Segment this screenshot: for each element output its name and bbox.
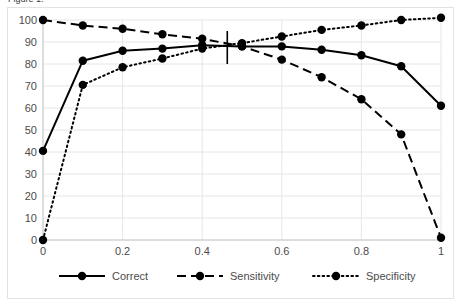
data-point-marker [437, 102, 445, 110]
y-tick-label: 80 [25, 58, 37, 70]
data-point-marker [198, 44, 206, 52]
data-point-marker [118, 47, 126, 55]
y-tick-label: 40 [25, 146, 37, 158]
data-point-marker [39, 236, 47, 244]
data-point-marker [39, 147, 47, 155]
x-tick-label: 0.8 [354, 245, 369, 257]
data-point-marker [118, 25, 126, 33]
data-point-marker [437, 14, 445, 22]
data-point-marker [278, 55, 286, 63]
x-tick-label: 0.4 [195, 245, 210, 257]
data-point-marker [198, 35, 206, 43]
legend-label: Correct [112, 270, 148, 282]
legend-label: Sensitivity [230, 270, 280, 282]
data-point-marker [118, 63, 126, 71]
y-tick-label: 20 [25, 190, 37, 202]
x-tick-label: 0.2 [115, 245, 130, 257]
y-tick-label: 70 [25, 80, 37, 92]
data-point-marker [317, 73, 325, 81]
legend-item-correct[interactable]: Correct [59, 270, 148, 282]
data-point-marker [79, 81, 87, 89]
data-point-marker [397, 62, 405, 70]
y-tick-label: 60 [25, 102, 37, 114]
y-tick-label: 30 [25, 168, 37, 180]
data-point-marker [357, 51, 365, 59]
legend-marker [78, 272, 86, 280]
series-correct [39, 41, 445, 155]
y-tick-label: 100 [19, 14, 37, 26]
line-chart-plot: 0102030405060708090100 00.20.40.60.81 Co… [8, 8, 453, 298]
data-point-marker [158, 30, 166, 38]
x-tick-label: 0 [40, 245, 46, 257]
data-point-marker [357, 95, 365, 103]
gridlines [43, 20, 441, 240]
x-tick-label: 0.6 [274, 245, 289, 257]
data-point-marker [238, 39, 246, 47]
data-point-marker [357, 21, 365, 29]
y-axis-tick-labels: 0102030405060708090100 [19, 14, 37, 246]
series-line [43, 18, 441, 240]
data-point-marker [79, 57, 87, 65]
figure-caption-text: Figure 1. [8, 0, 308, 4]
data-point-marker [437, 234, 445, 242]
data-point-marker [317, 26, 325, 34]
data-point-marker [158, 54, 166, 62]
data-point-marker [397, 130, 405, 138]
legend-label: Specificity [366, 270, 416, 282]
series-line [43, 45, 441, 151]
y-tick-label: 0 [31, 234, 37, 246]
data-point-marker [317, 46, 325, 54]
data-point-marker [397, 16, 405, 24]
x-axis-tick-labels: 00.20.40.60.81 [40, 245, 444, 257]
data-point-marker [158, 44, 166, 52]
series-line [43, 20, 441, 238]
y-tick-label: 90 [25, 36, 37, 48]
legend-item-specificity[interactable]: Specificity [313, 270, 416, 282]
y-tick-label: 50 [25, 124, 37, 136]
chart-container: Figure 1. 0102030405060708090100 00.20.4… [0, 0, 463, 307]
legend-marker [196, 272, 204, 280]
data-point-marker [278, 42, 286, 50]
y-tick-label: 10 [25, 212, 37, 224]
data-point-marker [278, 32, 286, 40]
x-tick-label: 1 [438, 245, 444, 257]
chart-legend: CorrectSensitivitySpecificity [59, 270, 416, 282]
legend-marker [332, 272, 340, 280]
legend-item-sensitivity[interactable]: Sensitivity [177, 270, 280, 282]
figure-caption-sliver: Figure 1. [8, 0, 308, 5]
data-series-layer [39, 14, 445, 245]
series-sensitivity [39, 16, 445, 242]
data-point-marker [79, 21, 87, 29]
chart-frame: 0102030405060708090100 00.20.40.60.81 Co… [7, 7, 454, 299]
data-point-marker [39, 16, 47, 24]
